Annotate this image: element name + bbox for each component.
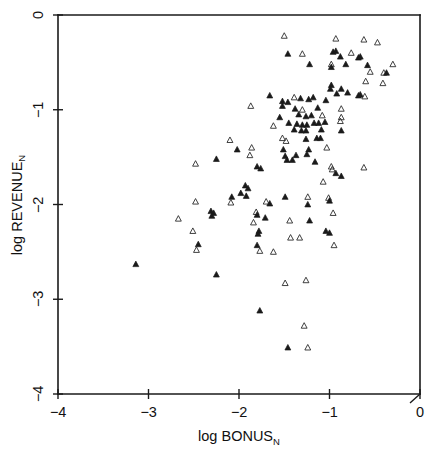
data-point-marker xyxy=(301,323,307,329)
data-point-marker xyxy=(361,37,367,43)
data-point-marker xyxy=(285,99,291,105)
x-tick-label-2: −2 xyxy=(231,404,247,420)
data-point-marker xyxy=(193,161,199,167)
data-point-marker xyxy=(282,194,288,200)
data-point-marker xyxy=(262,215,268,221)
data-point-marker xyxy=(257,308,263,314)
data-point-marker xyxy=(307,218,313,224)
data-point-marker xyxy=(310,94,316,100)
ticks-group xyxy=(53,15,420,399)
y-axis-title: log REVENUEN xyxy=(9,155,28,255)
data-point-marker xyxy=(194,247,200,253)
y-tick-label-4: −4 xyxy=(30,386,46,402)
axes-group xyxy=(58,15,420,403)
data-point-marker xyxy=(291,127,297,133)
data-point-marker xyxy=(195,241,201,247)
data-point-marker xyxy=(277,114,283,120)
data-point-marker xyxy=(175,216,181,222)
data-point-marker xyxy=(279,135,285,141)
data-point-marker xyxy=(282,280,288,286)
data-point-marker xyxy=(292,106,298,112)
data-point-marker xyxy=(270,249,276,255)
data-point-marker xyxy=(303,136,309,142)
data-point-marker xyxy=(363,78,369,84)
data-point-marker xyxy=(319,112,325,118)
y-tick-label-3: −3 xyxy=(30,291,46,307)
scatter-plot-figure: −4−3−2−10 0−1−2−3−4 log BONUSN log REVEN… xyxy=(0,0,436,455)
data-point-marker xyxy=(312,159,318,165)
data-point-marker xyxy=(213,272,219,278)
x-tick-label-3: −1 xyxy=(321,404,337,420)
data-point-marker xyxy=(333,170,339,176)
data-point-marker xyxy=(286,120,292,126)
data-point-marker xyxy=(291,94,297,100)
plot-canvas xyxy=(0,0,436,455)
data-point-marker xyxy=(298,95,304,101)
data-point-marker xyxy=(331,242,337,248)
data-point-marker xyxy=(297,235,303,241)
data-point-marker xyxy=(367,69,373,75)
data-point-marker xyxy=(323,97,329,103)
data-point-marker xyxy=(285,51,291,57)
data-point-marker xyxy=(380,80,386,86)
data-point-marker xyxy=(247,152,253,158)
data-point-marker xyxy=(193,199,199,205)
data-point-marker xyxy=(303,277,309,283)
data-point-marker xyxy=(133,261,139,267)
data-point-marker xyxy=(281,33,287,39)
data-point-marker xyxy=(345,90,351,96)
data-point-marker xyxy=(324,145,330,151)
data-point-marker xyxy=(249,145,255,151)
axis-arrow-icon xyxy=(410,394,420,403)
data-point-marker xyxy=(285,344,291,350)
data-point-marker xyxy=(338,127,344,133)
data-point-marker xyxy=(328,82,334,88)
data-point-marker xyxy=(322,119,328,125)
y-tick-label-2: −2 xyxy=(30,196,46,212)
data-markers-group xyxy=(133,33,396,350)
x-tick-label-4: 0 xyxy=(416,404,424,420)
data-point-marker xyxy=(338,106,344,112)
y-tick-label-1: −1 xyxy=(30,102,46,118)
x-axis-title-text: log BONUS xyxy=(198,428,273,444)
data-point-marker xyxy=(305,344,311,350)
data-point-marker xyxy=(294,121,300,127)
data-point-marker xyxy=(238,190,244,196)
data-point-marker xyxy=(293,152,299,158)
data-point-marker xyxy=(303,127,309,133)
data-point-marker xyxy=(299,51,305,57)
data-point-marker xyxy=(227,137,233,143)
data-point-marker xyxy=(305,201,311,207)
x-axis-title-subscript: N xyxy=(273,436,280,447)
data-point-marker xyxy=(375,39,381,45)
data-point-marker xyxy=(257,248,263,254)
data-point-marker xyxy=(304,122,310,128)
data-point-marker xyxy=(234,146,240,152)
data-point-marker xyxy=(390,61,396,67)
x-tick-label-0: −4 xyxy=(50,404,66,420)
data-point-marker xyxy=(299,107,305,113)
data-point-marker xyxy=(338,86,344,92)
data-point-marker xyxy=(308,112,314,118)
data-point-marker xyxy=(365,62,371,68)
data-point-marker xyxy=(305,194,311,200)
data-point-marker xyxy=(348,50,354,56)
data-point-marker xyxy=(287,218,293,224)
data-point-marker xyxy=(288,235,294,241)
data-point-marker xyxy=(251,219,257,225)
data-point-marker xyxy=(248,103,254,109)
data-point-marker xyxy=(315,105,321,111)
data-point-marker xyxy=(280,146,286,152)
y-axis-title-text: log REVENUE xyxy=(9,162,25,255)
data-point-marker xyxy=(343,61,349,67)
x-tick-label-1: −3 xyxy=(140,404,156,420)
data-point-marker xyxy=(337,54,343,60)
data-point-marker xyxy=(254,242,260,248)
data-point-marker xyxy=(270,123,276,129)
data-point-marker xyxy=(320,179,326,185)
x-axis-title: log BONUSN xyxy=(198,428,280,447)
y-axis-title-subscript: N xyxy=(16,155,27,162)
data-point-marker xyxy=(333,36,339,42)
data-point-marker xyxy=(228,200,234,206)
data-point-marker xyxy=(361,164,367,170)
